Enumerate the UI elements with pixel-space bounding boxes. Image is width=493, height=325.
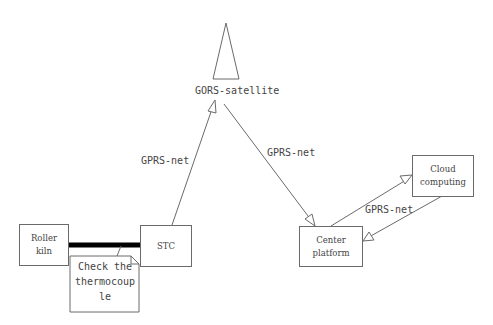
edge-label-stc-satellite: GPRS-net bbox=[141, 155, 189, 166]
thermocouple-note: Check the thermocoup le bbox=[70, 256, 140, 312]
satellite-antenna-icon bbox=[213, 23, 239, 79]
node-center-platform: Center platform bbox=[299, 226, 363, 267]
arrowhead-icon bbox=[208, 100, 216, 113]
note-line2: thermocoup bbox=[70, 274, 140, 289]
node-roller-kiln-line1: Roller bbox=[31, 232, 57, 245]
edge-satellite-to-center bbox=[224, 104, 311, 220]
edge-label-center-cloud: GPRS-net bbox=[365, 204, 413, 215]
edge-label-satellite-center: GPRS-net bbox=[267, 147, 315, 158]
node-cloud-computing-line2: computing bbox=[420, 176, 466, 189]
note-line3: le bbox=[70, 289, 140, 304]
node-center-platform-line2: platform bbox=[312, 247, 349, 260]
node-cloud-computing-line1: Cloud bbox=[420, 163, 466, 176]
node-roller-kiln: Roller kiln bbox=[19, 224, 69, 266]
note-line1: Check the bbox=[70, 259, 140, 274]
edge-center-to-cloud bbox=[331, 180, 406, 226]
node-stc: STC bbox=[140, 225, 192, 267]
node-roller-kiln-line2: kiln bbox=[31, 245, 57, 258]
arrowhead-icon bbox=[305, 214, 315, 226]
edge-cloud-to-center bbox=[369, 196, 442, 237]
arrowhead-icon bbox=[363, 232, 374, 241]
node-stc-label: STC bbox=[157, 240, 175, 253]
node-center-platform-line1: Center bbox=[312, 234, 349, 247]
node-cloud-computing: Cloud computing bbox=[412, 155, 474, 197]
system-diagram: GORS-satellite GPRS-net GPRS-net GPRS-ne… bbox=[0, 0, 493, 325]
satellite-label: GORS-satellite bbox=[195, 85, 279, 96]
